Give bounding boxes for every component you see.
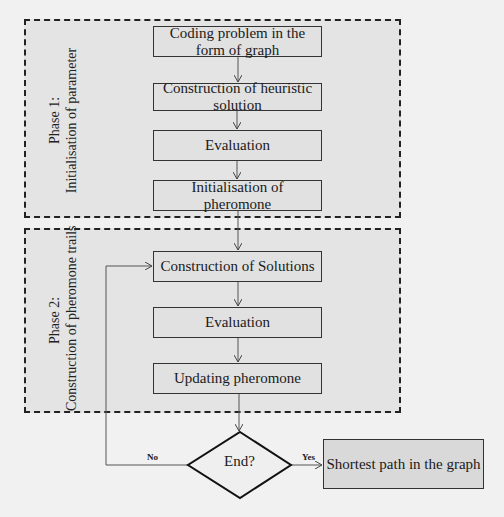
node-heuristic-solution: Construction of heuristic solution bbox=[153, 83, 322, 111]
node-label: Evaluation bbox=[205, 137, 270, 154]
node-label: Construction of Solutions bbox=[160, 258, 314, 275]
node-label: Updating pheromone bbox=[174, 370, 301, 387]
node-shortest-path: Shortest path in the graph bbox=[323, 439, 484, 489]
node-construction-solutions: Construction of Solutions bbox=[153, 251, 322, 282]
flowchart-canvas: Phase 1: Initialisation of parameter Pha… bbox=[0, 0, 504, 517]
node-evaluation-1: Evaluation bbox=[153, 130, 322, 161]
node-label: Initialisation of pheromone bbox=[158, 179, 317, 213]
edge-label-yes: Yes bbox=[302, 452, 315, 462]
edge-label-no: No bbox=[147, 452, 158, 462]
node-init-pheromone: Initialisation of pheromone bbox=[153, 180, 322, 211]
node-label: Shortest path in the graph bbox=[326, 456, 480, 473]
node-coding-problem: Coding problem in the form of graph bbox=[153, 26, 322, 57]
decision-label: End? bbox=[188, 453, 291, 470]
node-label: Evaluation bbox=[205, 314, 270, 331]
node-evaluation-2: Evaluation bbox=[153, 307, 322, 338]
node-label: Coding problem in the form of graph bbox=[158, 25, 317, 59]
node-label: Construction of heuristic solution bbox=[158, 80, 317, 114]
node-updating-pheromone: Updating pheromone bbox=[153, 363, 322, 394]
